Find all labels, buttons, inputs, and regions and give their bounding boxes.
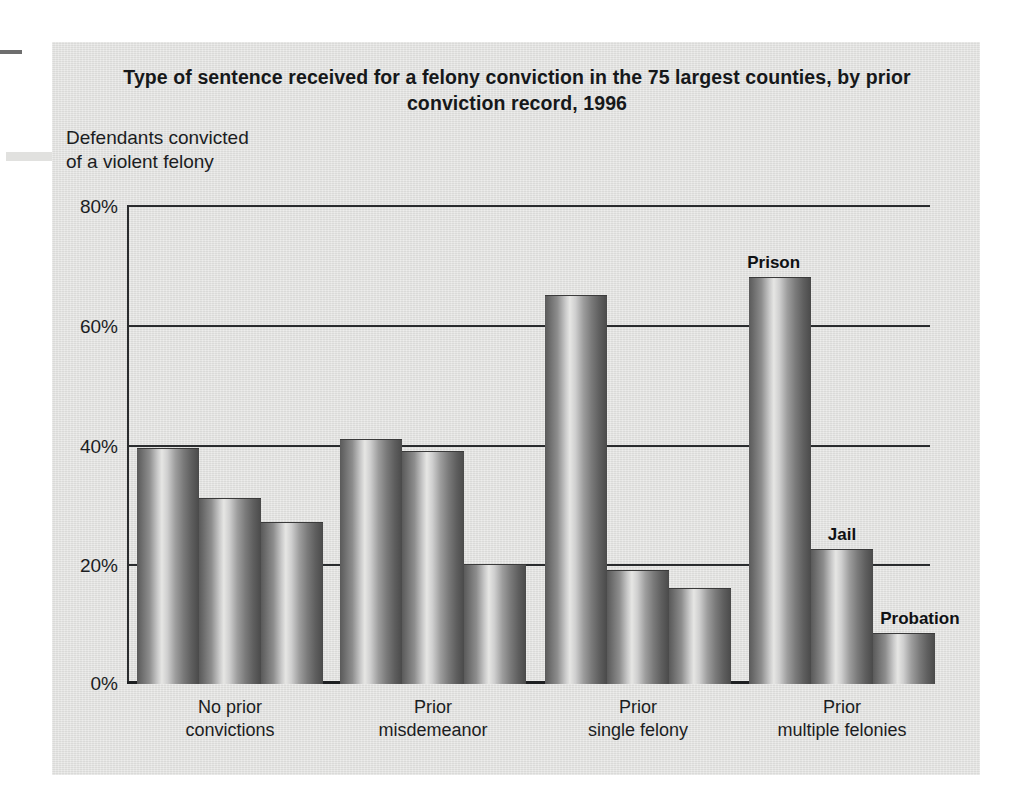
y-tick-label: 0%: [91, 673, 118, 695]
plot-area: 0%20%40%60%80% No priorconvictionsPriorm…: [127, 205, 930, 684]
category-label-line-2: multiple felonies: [777, 719, 906, 742]
bar-prison[interactable]: [340, 439, 402, 684]
y-tick-label: 80%: [80, 196, 118, 218]
bar-prison[interactable]: Prison: [749, 277, 811, 684]
y-tick-label: 60%: [80, 316, 118, 338]
y-axis-caption-line-2: of a violent felony: [66, 150, 249, 174]
category-label-line-1: Prior: [378, 696, 487, 719]
bar-prison[interactable]: [137, 448, 199, 685]
bar-probation[interactable]: Probation: [873, 633, 935, 684]
y-axis-caption-line-1: Defendants convicted: [66, 126, 249, 150]
bar-jail[interactable]: Jail: [811, 549, 873, 684]
bar-jail[interactable]: [607, 570, 669, 684]
y-tick-label: 40%: [80, 436, 118, 458]
y-axis-caption: Defendants convicted of a violent felony: [66, 126, 249, 174]
bar-annotation-prison: Prison: [747, 253, 800, 273]
bar-probation[interactable]: [464, 564, 526, 684]
category-label: Priorsingle felony: [588, 696, 688, 742]
page-margin-smudge: [6, 152, 52, 161]
category-label: Priormisdemeanor: [378, 696, 487, 742]
chart-panel: Type of sentence received for a felony c…: [52, 42, 980, 775]
bar-jail[interactable]: [199, 498, 261, 684]
bar-probation[interactable]: [669, 588, 731, 684]
bar-group: Priormisdemeanor: [340, 205, 526, 684]
category-label-line-1: No prior: [185, 696, 274, 719]
bar-prison[interactable]: [545, 295, 607, 684]
category-label-line-2: single felony: [588, 719, 688, 742]
category-label-line-2: misdemeanor: [378, 719, 487, 742]
bar-annotation-probation: Probation: [880, 609, 959, 629]
bar-probation[interactable]: [261, 522, 323, 684]
category-label-line-1: Prior: [777, 696, 906, 719]
bar-group: PrisonJailProbationPriormultiple felonie…: [749, 205, 935, 684]
page-margin-tick: [0, 50, 22, 54]
category-label: No priorconvictions: [185, 696, 274, 742]
bar-group: No priorconvictions: [137, 205, 323, 684]
y-tick-label: 20%: [80, 555, 118, 577]
chart-title: Type of sentence received for a felony c…: [122, 64, 912, 116]
bar-group: Priorsingle felony: [545, 205, 731, 684]
bar-annotation-jail: Jail: [828, 525, 856, 545]
category-label-line-2: convictions: [185, 719, 274, 742]
category-label: Priormultiple felonies: [777, 696, 906, 742]
bar-jail[interactable]: [402, 451, 464, 685]
category-label-line-1: Prior: [588, 696, 688, 719]
